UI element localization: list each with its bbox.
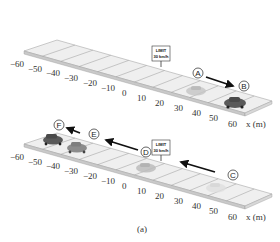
x-axis-label: x (m) xyxy=(246,212,266,222)
sign-line-1: LIMIT xyxy=(156,142,167,147)
point-C-label: C xyxy=(228,170,238,180)
bottom-road-panel: LIMIT 30 km/h C xyxy=(10,120,272,234)
svg-text:−40: −40 xyxy=(46,161,61,171)
svg-text:30: 30 xyxy=(174,103,184,113)
svg-text:−30: −30 xyxy=(64,166,79,176)
svg-text:−20: −20 xyxy=(83,78,98,88)
arrow-E-to-F xyxy=(67,128,80,133)
svg-text:C: C xyxy=(230,171,236,180)
sign-line-1: LIMIT xyxy=(156,48,167,53)
svg-text:0: 0 xyxy=(122,181,127,191)
svg-text:60: 60 xyxy=(228,119,238,129)
svg-text:50: 50 xyxy=(209,206,219,216)
svg-text:50: 50 xyxy=(209,113,219,123)
figure-caption: (a) xyxy=(137,224,147,234)
speed-limit-sign: LIMIT 30 km/h xyxy=(152,46,170,67)
speed-limit-sign: LIMIT 30 km/h xyxy=(152,140,170,161)
point-D-label: D xyxy=(141,147,151,157)
x-axis-label: x (m) xyxy=(246,119,266,129)
point-A-label: A xyxy=(193,68,203,78)
svg-text:10: 10 xyxy=(137,93,147,103)
svg-text:0: 0 xyxy=(122,88,127,98)
svg-text:−50: −50 xyxy=(28,64,43,74)
svg-text:F: F xyxy=(57,121,62,130)
point-F-label: F xyxy=(54,120,64,130)
svg-text:−10: −10 xyxy=(101,176,116,186)
svg-text:−40: −40 xyxy=(46,68,61,78)
svg-text:−60: −60 xyxy=(10,59,25,69)
svg-text:60: 60 xyxy=(228,212,238,222)
svg-text:40: 40 xyxy=(192,108,202,118)
svg-text:10: 10 xyxy=(137,186,147,196)
motion-diagram: LIMIT 30 km/h A B −60 −50 −40 xyxy=(0,0,280,242)
svg-text:B: B xyxy=(241,82,246,91)
svg-text:D: D xyxy=(143,148,149,157)
svg-text:20: 20 xyxy=(155,191,165,201)
svg-text:−60: −60 xyxy=(10,152,25,162)
svg-text:−20: −20 xyxy=(83,171,98,181)
svg-text:20: 20 xyxy=(155,98,165,108)
svg-text:A: A xyxy=(195,69,201,78)
point-B-label: B xyxy=(239,81,249,91)
svg-text:30: 30 xyxy=(174,196,184,206)
svg-text:E: E xyxy=(91,130,96,139)
svg-text:40: 40 xyxy=(192,201,202,211)
top-road-panel: LIMIT 30 km/h A B −60 −50 −40 xyxy=(10,40,272,129)
svg-text:−50: −50 xyxy=(28,157,43,167)
svg-text:−30: −30 xyxy=(64,73,79,83)
sign-line-2: 30 km/h xyxy=(154,148,169,153)
sign-line-2: 30 km/h xyxy=(154,54,169,59)
point-E-label: E xyxy=(89,129,99,139)
svg-text:−10: −10 xyxy=(101,83,116,93)
